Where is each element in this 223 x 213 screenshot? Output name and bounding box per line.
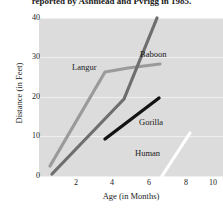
gridline-10 — [39, 136, 223, 137]
gridline-0 — [39, 176, 223, 177]
chart-figure: reported by Ashmead and Pvrigg in 1985. … — [0, 0, 223, 213]
series-label-human: Human — [135, 148, 160, 158]
y-tick-40: 40 — [12, 13, 40, 22]
y-axis-label: Distance (in Feet) — [14, 28, 24, 158]
gridline-30 — [39, 57, 223, 58]
x-axis-label: Age (in Months) — [39, 191, 223, 201]
chart-title: reported by Ashmead and Pvrigg in 1985. — [0, 0, 223, 6]
series-label-baboon: Baboon — [140, 49, 166, 59]
gridline-20 — [39, 97, 223, 98]
x-tick-4: 4 — [102, 178, 122, 187]
gridline-40 — [39, 18, 223, 19]
x-tick-10: 10 — [203, 178, 223, 187]
series-label-langur: Langur — [72, 62, 97, 72]
series-label-gorilla: Gorilla — [139, 117, 163, 127]
x-tick-8: 8 — [176, 178, 196, 187]
x-tick-2: 2 — [66, 178, 86, 187]
x-tick-6: 6 — [139, 178, 159, 187]
y-tick-0: 0 — [12, 171, 40, 180]
